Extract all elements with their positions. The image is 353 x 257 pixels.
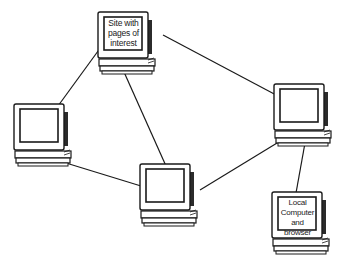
edge-site-left [58,47,101,106]
computer-icon [138,162,202,228]
node-center [138,162,202,228]
edge-site-center [124,72,166,166]
computer-icon [272,82,336,148]
node-label: Local Computer and browser [278,198,317,238]
node-local: Local Computer and browser [270,190,334,256]
label-line: Local [278,198,317,208]
edge-site-right [163,35,278,96]
node-right [272,82,336,148]
label-line: pages of [105,28,142,38]
node-left [12,102,76,168]
edge-right-local [296,143,305,193]
edge-left-center [66,163,141,186]
label-line: Site with [105,18,142,28]
node-site: Site with pages of interest [96,10,160,76]
label-line: and browser [278,218,317,238]
edge-center-right [200,140,282,190]
computer-icon [12,102,76,168]
label-line: Computer [278,208,317,218]
label-line: interest [105,38,142,48]
node-label: Site with pages of interest [105,18,142,48]
